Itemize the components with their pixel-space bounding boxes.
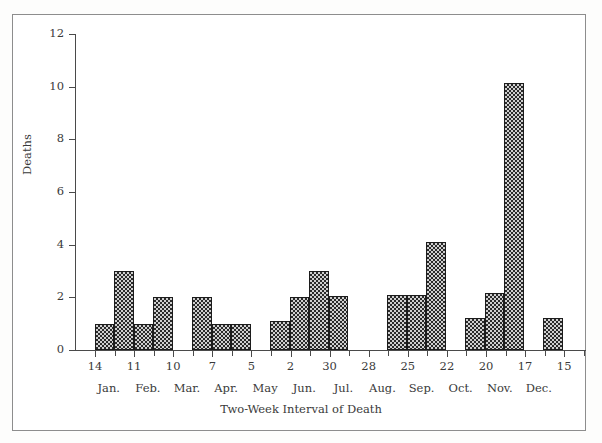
bar	[153, 297, 173, 350]
x-tick-label: 10	[155, 360, 191, 373]
bar	[465, 318, 485, 350]
bar	[543, 318, 563, 350]
x-minor-tick-mark	[506, 351, 507, 356]
x-tick-mark	[447, 351, 448, 357]
x-tick-label: 17	[507, 360, 543, 373]
y-tick-label: 6	[24, 186, 64, 198]
x-minor-tick-mark	[310, 351, 311, 356]
x-tick-label: 20	[468, 360, 504, 373]
y-axis-line	[75, 34, 76, 351]
x-tick-mark	[173, 351, 174, 357]
y-tick-label: 12	[24, 28, 64, 40]
x-tick-label: 15	[546, 360, 582, 373]
x-tick-mark	[95, 351, 96, 357]
bar	[114, 271, 134, 350]
bar	[231, 324, 251, 350]
y-tick-mark	[69, 139, 75, 140]
x-tick-label: 22	[429, 360, 465, 373]
x-tick-label: 25	[390, 360, 426, 373]
x-tick-mark	[564, 351, 565, 357]
y-tick-mark	[69, 87, 75, 88]
bar	[95, 324, 114, 350]
bar	[504, 83, 524, 350]
x-tick-label: 14	[77, 360, 113, 373]
x-tick-mark	[291, 351, 292, 357]
x-tick-mark	[408, 351, 409, 357]
bar	[485, 293, 504, 350]
x-tick-mark	[212, 351, 213, 357]
x-tick-mark	[369, 351, 370, 357]
bar	[426, 242, 446, 350]
x-tick-label: 28	[351, 360, 387, 373]
bar	[387, 295, 407, 350]
x-tick-label: 5	[233, 360, 269, 373]
x-tick-label: 11	[116, 360, 152, 373]
x-minor-tick-mark	[271, 351, 272, 356]
x-tick-mark	[486, 351, 487, 357]
x-minor-tick-mark	[193, 351, 194, 356]
bar	[309, 271, 329, 350]
y-tick-label: 4	[24, 239, 64, 251]
plot-area: 024681012 14111075230282522201715 Jan.Fe…	[0, 0, 602, 443]
chart-page: 024681012 14111075230282522201715 Jan.Fe…	[0, 0, 602, 443]
y-tick-label: 10	[24, 81, 64, 93]
x-tick-mark	[525, 351, 526, 357]
x-minor-tick-mark	[584, 351, 585, 356]
bar	[270, 321, 290, 350]
x-tick-mark	[134, 351, 135, 357]
bar	[192, 297, 212, 350]
x-tick-label: 30	[312, 360, 348, 373]
bar	[329, 296, 348, 350]
bar	[290, 297, 309, 350]
month-label: Dec.	[516, 382, 562, 395]
y-tick-mark	[69, 192, 75, 193]
y-tick-mark	[69, 297, 75, 298]
x-minor-tick-mark	[388, 351, 389, 356]
bar	[407, 295, 426, 350]
y-tick-mark	[69, 350, 75, 351]
x-tick-mark	[330, 351, 331, 357]
y-axis-title: Deaths	[20, 134, 34, 175]
x-minor-tick-mark	[427, 351, 428, 356]
y-tick-label: 0	[24, 344, 64, 356]
y-tick-mark	[69, 245, 75, 246]
bar	[212, 324, 231, 350]
x-minor-tick-mark	[154, 351, 155, 356]
x-minor-tick-mark	[349, 351, 350, 356]
x-tick-label: 2	[273, 360, 309, 373]
x-minor-tick-mark	[115, 351, 116, 356]
bar	[134, 324, 153, 350]
x-tick-label: 7	[194, 360, 230, 373]
y-tick-mark	[69, 34, 75, 35]
x-minor-tick-mark	[232, 351, 233, 356]
x-axis-title: Two-Week Interval of Death	[0, 402, 602, 416]
x-minor-tick-mark	[466, 351, 467, 356]
x-minor-tick-mark	[545, 351, 546, 356]
y-tick-label: 2	[24, 291, 64, 303]
x-tick-mark	[251, 351, 252, 357]
